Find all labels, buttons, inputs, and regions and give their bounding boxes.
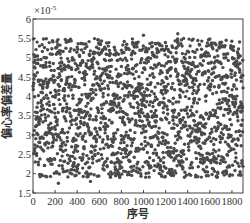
data-points (31, 32, 244, 185)
data-point (224, 56, 227, 59)
data-point (211, 79, 214, 82)
data-point (216, 172, 219, 175)
data-point (76, 67, 79, 70)
data-point (83, 121, 86, 124)
data-point (91, 63, 94, 66)
data-point (236, 162, 239, 165)
data-point (141, 86, 144, 89)
data-point (55, 138, 58, 141)
data-point (137, 40, 140, 43)
data-point (149, 81, 152, 84)
data-point (165, 105, 168, 108)
data-point (53, 158, 56, 161)
data-point (224, 140, 227, 143)
data-point (175, 57, 178, 60)
scatter-chart: 020040060080010001200140016001800 1.522.… (0, 0, 250, 223)
data-point (213, 65, 216, 68)
data-point (91, 66, 94, 69)
data-point (125, 149, 128, 152)
data-point (187, 149, 190, 152)
data-point (52, 75, 55, 78)
data-point (230, 76, 233, 79)
data-point (187, 37, 190, 40)
data-point (210, 173, 213, 176)
data-point (169, 51, 172, 54)
data-point (98, 67, 101, 70)
data-point (136, 106, 139, 109)
data-point (160, 64, 163, 67)
data-point (187, 97, 190, 100)
data-point (108, 49, 111, 52)
data-point (161, 136, 164, 139)
data-point (193, 56, 196, 59)
data-point (77, 86, 80, 89)
data-point (63, 131, 66, 134)
data-point (169, 74, 172, 77)
data-point (238, 62, 241, 65)
y-tick-label: 6 (26, 14, 31, 25)
data-point (167, 141, 170, 144)
data-point (214, 43, 217, 46)
data-point (217, 148, 220, 151)
data-point (110, 65, 113, 68)
data-point (88, 115, 91, 118)
data-point (35, 40, 38, 43)
data-point (161, 170, 164, 173)
data-point (189, 109, 192, 112)
data-point (44, 77, 47, 80)
data-point (36, 111, 39, 114)
data-point (122, 156, 125, 159)
data-point (197, 137, 200, 140)
data-point (57, 93, 60, 96)
data-point (198, 83, 201, 86)
data-point (224, 82, 227, 85)
data-point (160, 175, 163, 178)
data-point (45, 56, 48, 59)
data-point (228, 118, 231, 121)
data-point (87, 59, 90, 62)
data-point (45, 94, 48, 97)
data-point (96, 62, 99, 65)
data-point (39, 118, 42, 121)
data-point (185, 157, 188, 160)
data-point (203, 160, 206, 163)
data-point (238, 40, 241, 43)
data-point (200, 48, 203, 51)
data-point (196, 101, 199, 104)
data-point (205, 113, 208, 116)
data-point (216, 54, 219, 57)
data-point (75, 51, 78, 54)
data-point (208, 37, 211, 40)
data-point (79, 132, 82, 135)
data-point (88, 54, 91, 57)
data-point (211, 92, 214, 95)
data-point (176, 37, 179, 40)
data-point (171, 119, 174, 122)
data-point (234, 71, 237, 74)
data-point (213, 85, 216, 88)
data-point (183, 171, 186, 174)
data-point (152, 159, 155, 162)
data-point (164, 175, 167, 178)
data-point (139, 147, 142, 150)
data-point (58, 85, 61, 88)
data-point (103, 87, 106, 90)
data-point (203, 126, 206, 129)
data-point (192, 114, 195, 117)
data-point (205, 165, 208, 168)
data-point (144, 130, 147, 133)
data-point (215, 157, 218, 160)
data-point (118, 96, 121, 99)
data-point (85, 62, 88, 65)
data-point (61, 164, 64, 167)
data-point (132, 137, 135, 140)
data-point (176, 72, 179, 75)
data-point (135, 45, 138, 48)
data-point (66, 153, 69, 156)
data-point (91, 97, 94, 100)
data-point (173, 109, 176, 112)
data-point (131, 141, 134, 144)
data-point (165, 133, 168, 136)
data-point (93, 37, 96, 40)
data-point (139, 175, 142, 178)
